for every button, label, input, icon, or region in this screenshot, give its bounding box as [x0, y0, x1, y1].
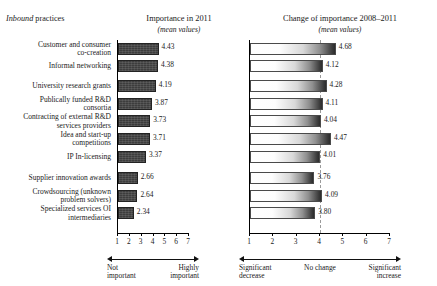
- axis-tick-label: 2: [270, 237, 274, 246]
- right-anchor-arrow-head-low: [239, 256, 244, 262]
- category-label-row: Specialized services OIintermediaries: [0, 205, 115, 223]
- category-label-text: Crowdsourcing (unknownproblem solvers): [32, 188, 111, 205]
- category-label-list: Customer and consumerco-creationInformal…: [0, 40, 115, 222]
- inbound-practices-header: Inbound practices: [6, 14, 116, 24]
- left-chart-plot-area: 4.434.384.193.873.733.713.372.662.642.34: [117, 40, 189, 233]
- axis-tick-label: 4: [151, 237, 155, 246]
- bar-value-label: 4.47: [334, 132, 347, 143]
- right-anchor-label-high: Significant increase: [369, 264, 401, 281]
- bar-value-label: 4.19: [159, 79, 172, 90]
- axis-tick: [188, 233, 189, 236]
- bar: [250, 98, 323, 110]
- axis-tick-label: 7: [387, 237, 391, 246]
- category-label-row: Idea and start-upcompetitions: [0, 130, 115, 148]
- right-chart-anchor-scale: Significant decrease No change Significa…: [239, 256, 401, 286]
- axis-tick-label: 3: [139, 237, 143, 246]
- right-chart-subtitle: (mean values): [250, 25, 430, 36]
- axis-tick: [141, 233, 142, 236]
- right-anchor-label-mid: No change: [304, 264, 336, 272]
- axis-tick-label: 6: [364, 237, 368, 246]
- axis-tick-label: 6: [174, 237, 178, 246]
- category-label-row: University research grants: [0, 78, 115, 96]
- bar: [250, 207, 315, 219]
- category-label-text: IP In-licensing: [67, 153, 111, 161]
- bar-value-label: 4.11: [326, 97, 339, 108]
- axis-tick: [117, 233, 118, 236]
- right-chart-title: Change of importance 2008–2011 (mean val…: [250, 14, 430, 35]
- bar-value-label: 3.37: [149, 149, 162, 160]
- bar: [118, 60, 158, 72]
- category-label-text: Specialized services OIintermediaries: [41, 205, 111, 222]
- header-italic-word: Inbound: [6, 14, 33, 23]
- bar-value-label: 3.80: [318, 206, 331, 217]
- axis-tick: [153, 233, 154, 236]
- bar: [250, 133, 331, 145]
- right-anchor-arrow-head-high: [396, 256, 401, 262]
- axis-tick-label: 1: [247, 237, 251, 246]
- figure-root: Inbound practices Importance in 2011 (me…: [0, 0, 437, 286]
- axis-tick: [129, 233, 130, 236]
- category-label-text: Customer and consumerco-creation: [38, 41, 111, 58]
- bar: [118, 207, 134, 219]
- bar-value-label: 3.71: [153, 132, 166, 143]
- bar-value-label: 3.76: [317, 171, 330, 182]
- bar: [118, 43, 159, 55]
- left-anchor-arrow-head-low: [107, 256, 112, 262]
- axis-tick: [272, 233, 273, 236]
- axis-tick: [296, 233, 297, 236]
- axis-tick: [249, 233, 250, 236]
- bar-value-label: 4.38: [161, 59, 174, 70]
- axis-tick: [342, 233, 343, 236]
- axis-tick: [389, 233, 390, 236]
- bar: [118, 80, 156, 92]
- axis-tick: [319, 233, 320, 236]
- right-anchor-label-low: Significant decrease: [239, 264, 271, 281]
- bar-value-label: 3.73: [153, 114, 166, 125]
- axis-tick-label: 5: [340, 237, 344, 246]
- bar: [250, 172, 314, 184]
- axis-tick-label: 3: [294, 237, 298, 246]
- bar-value-label: 3.87: [155, 97, 168, 108]
- bar: [250, 60, 323, 72]
- header-regular-word: practices: [33, 14, 64, 23]
- category-label-text: Publically funded R&Dconsortia: [40, 96, 111, 113]
- bar: [118, 151, 146, 163]
- category-label-text: University research grants: [32, 82, 111, 90]
- bar: [250, 115, 321, 127]
- bar: [250, 190, 322, 202]
- left-chart-anchor-scale: Not important Highly important: [107, 256, 199, 286]
- right-chart-title-text: Change of importance 2008–2011: [283, 14, 397, 23]
- axis-tick: [164, 233, 165, 236]
- category-label-row: Supplier innovation awards: [0, 170, 115, 188]
- bar: [250, 151, 320, 163]
- category-label-row: IP In-licensing: [0, 148, 115, 166]
- category-label-text: Supplier innovation awards: [29, 174, 112, 182]
- category-label-row: Publically funded R&Dconsortia: [0, 95, 115, 113]
- right-anchor-arrow-line: [244, 259, 396, 260]
- axis-tick-label: 7: [186, 237, 190, 246]
- right-chart-axis: 1234567: [249, 233, 390, 249]
- right-chart-plot-area: 4.684.124.284.114.044.474.013.764.093.80: [249, 40, 390, 233]
- axis-tick-label: 4: [317, 237, 321, 246]
- bar-value-label: 4.43: [162, 41, 175, 52]
- bar-value-label: 4.04: [324, 114, 337, 125]
- category-label-text: Idea and start-upcompetitions: [61, 131, 111, 148]
- bar-value-label: 2.64: [140, 189, 153, 200]
- bar: [118, 115, 150, 127]
- bar: [250, 80, 327, 92]
- left-anchor-arrow-line: [112, 259, 194, 260]
- bar: [118, 133, 150, 145]
- bar: [250, 43, 336, 55]
- left-chart-axis: 1234567: [117, 233, 189, 249]
- bar-value-label: 4.68: [339, 41, 352, 52]
- category-label-row: Customer and consumerco-creation: [0, 40, 115, 58]
- axis-tick: [366, 233, 367, 236]
- bar-value-label: 2.34: [137, 206, 150, 217]
- axis-tick-label: 2: [127, 237, 131, 246]
- category-label-row: Informal networking: [0, 58, 115, 76]
- left-chart-subtitle: (mean values): [118, 25, 240, 36]
- axis-tick-label: 5: [162, 237, 166, 246]
- bar: [118, 172, 138, 184]
- bar: [118, 190, 137, 202]
- category-label-text: Contracting of external R&Dservices prov…: [23, 113, 111, 130]
